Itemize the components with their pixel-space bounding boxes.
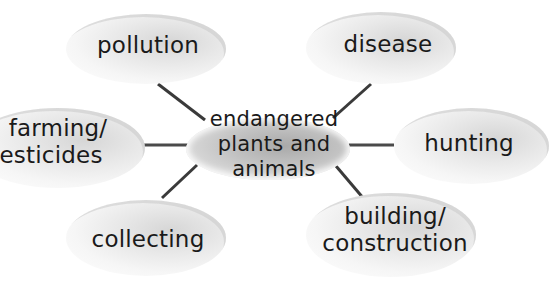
node-text: building/ (322, 203, 467, 230)
node-label-disease: disease (344, 31, 433, 58)
center-text-line: endangered (210, 107, 338, 132)
node-label-farming: farming/ pesticides (3, 115, 108, 169)
node-text: pesticides (0, 142, 107, 169)
node-text: pollution (97, 32, 199, 59)
node-text: construction (322, 230, 467, 257)
node-text: hunting (424, 130, 514, 157)
node-label-collecting: collecting (92, 226, 205, 253)
center-label: endangered plants and animals (210, 107, 338, 182)
node-label-building: building/ construction (322, 203, 467, 257)
mind-map-canvas: pollution disease farming/ pesticides hu… (0, 0, 552, 299)
node-text: disease (344, 31, 433, 58)
connector-pollution (158, 84, 205, 120)
connector-disease (333, 84, 371, 118)
node-label-hunting: hunting (424, 130, 514, 157)
node-label-pollution: pollution (97, 32, 199, 59)
node-text: collecting (92, 226, 205, 253)
connector-collecting (162, 165, 197, 198)
center-text-line: plants and (210, 132, 338, 157)
center-text-line: animals (210, 157, 338, 182)
node-text: farming/ (3, 115, 108, 142)
connector-building (336, 166, 364, 199)
